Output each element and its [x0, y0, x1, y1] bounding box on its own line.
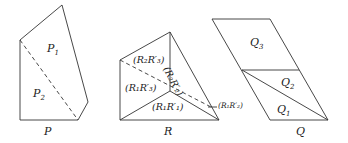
caption-q: Q — [296, 126, 305, 137]
region-label-r1r3: (R₁R′₃) — [125, 83, 157, 93]
region-label-q2: Q2 — [281, 77, 295, 91]
region-label-p2: P2 — [33, 88, 45, 102]
region-label-r1r2-pointer: (R₁R′₂) — [218, 102, 243, 110]
region-label-r1r1: (R₁R′₁) — [152, 102, 184, 112]
region-label-p1: P1 — [47, 43, 59, 57]
region-label-q3: Q3 — [250, 37, 264, 51]
region-label-r2r3: (R₂R′₃) — [133, 55, 165, 65]
region-label-q1: Q1 — [277, 104, 291, 118]
caption-r: R — [164, 126, 172, 137]
caption-p: P — [44, 126, 51, 137]
figure-p-shape — [20, 5, 88, 120]
